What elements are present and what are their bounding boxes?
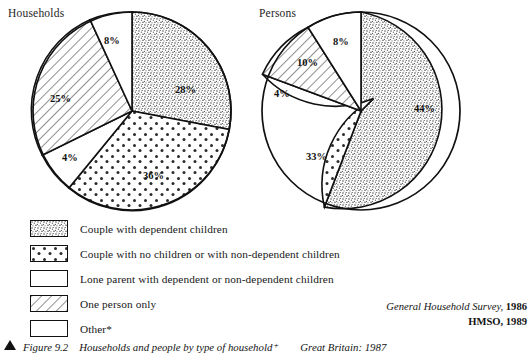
pie-charts-svg: [0, 0, 531, 215]
source-block: General Household Survey, 1986 HMSO, 198…: [386, 299, 527, 329]
legend-item-lone-parent: Lone parent with dependent or non-depend…: [30, 266, 340, 291]
legend-item-couple-nondependent: Couple with no children or with non-depe…: [30, 241, 340, 266]
legend-label-one-person: One person only: [80, 298, 156, 310]
legend-label-other: Other*: [80, 323, 112, 335]
label-households-25: 25%: [50, 93, 71, 104]
legend-item-one-person: One person only: [30, 291, 340, 316]
figure-region: Great Britain: 1987: [300, 341, 386, 353]
source-line-survey: General Household Survey, 1986: [386, 299, 527, 314]
legend-label-couple-dependent: Couple with dependent children: [80, 223, 228, 235]
legend-item-couple-dependent: Couple with dependent children: [30, 216, 340, 241]
source-survey-year: 1986: [506, 301, 527, 312]
label-persons-33: 33%: [306, 151, 327, 162]
label-persons-44: 44%: [414, 103, 435, 114]
source-survey-name: General Household Survey,: [386, 301, 503, 312]
legend-swatch-blank-other-icon: [30, 320, 68, 337]
label-persons-10: 10%: [297, 57, 318, 68]
pie-title-households: Households: [8, 7, 64, 19]
legend-label-lone-parent: Lone parent with dependent or non-depend…: [80, 273, 334, 285]
pie-households: [31, 12, 231, 211]
legend: Couple with dependent children Couple wi…: [30, 216, 340, 341]
label-households-4: 4%: [62, 152, 78, 163]
legend-swatch-diagonal-hatch-icon: [30, 295, 68, 312]
label-households-8: 8%: [104, 35, 120, 46]
figure-number: Figure 9.2: [23, 341, 68, 353]
legend-swatch-fine-stipple-icon: [30, 220, 68, 237]
source-line-publisher: HMSO, 1989: [386, 314, 527, 329]
label-households-28: 28%: [175, 84, 196, 95]
label-households-36: 36%: [143, 170, 164, 181]
legend-label-couple-nondependent: Couple with no children or with non-depe…: [80, 248, 340, 260]
slice-households-couple-dependent: [132, 12, 231, 130]
figure-title: Households and people by type of househo…: [79, 341, 278, 354]
legend-item-other: Other*: [30, 316, 340, 341]
label-persons-8: 8%: [333, 36, 349, 47]
legend-swatch-coarse-dots-icon: [30, 245, 68, 262]
figure-caption: Figure 9.2 Households and people by type…: [4, 341, 386, 354]
pie-title-persons: Persons: [259, 7, 296, 19]
triangle-bullet-icon: [4, 340, 16, 350]
label-persons-4: 4%: [274, 88, 290, 99]
legend-swatch-blank-icon: [30, 270, 68, 287]
figure-container: Households Persons 28% 36% 4% 25% 8% 44%…: [0, 0, 531, 359]
